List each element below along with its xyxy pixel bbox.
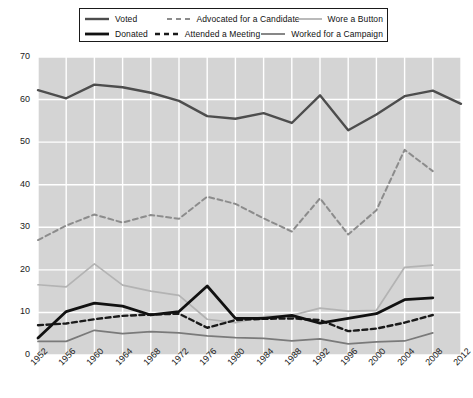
y-tick-40: 40 xyxy=(4,180,30,189)
y-tick-70: 70 xyxy=(4,52,30,61)
y-tick-20: 20 xyxy=(4,265,30,274)
y-tick-10: 10 xyxy=(4,307,30,316)
y-tick-0: 0 xyxy=(4,350,30,359)
y-tick-50: 50 xyxy=(4,137,30,146)
y-tick-30: 30 xyxy=(4,222,30,231)
y-tick-60: 60 xyxy=(4,95,30,104)
